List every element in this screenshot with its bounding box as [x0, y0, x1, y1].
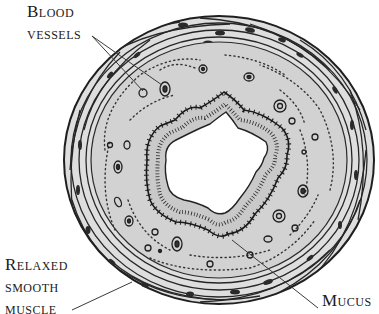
mucus-label: Mucus: [322, 290, 372, 312]
muscle-label-line1: Relaxed: [5, 254, 68, 276]
muscle-label-line2: smooth: [5, 276, 68, 298]
muscle-label-line3: muscle: [5, 298, 68, 314]
mucus-label-line1: Mucus: [322, 290, 372, 312]
blood-vessels-label-line2: vessels: [27, 23, 81, 45]
blood-vessels-label: Blood vessels: [27, 1, 81, 45]
muscle-leader-line: [72, 282, 132, 310]
airway-diagram-figure: Blood vessels Relaxed smooth muscle Mucu…: [0, 0, 379, 314]
relaxed-smooth-muscle-label: Relaxed smooth muscle: [5, 254, 68, 314]
blood-vessels-label-line1: Blood: [27, 1, 81, 23]
